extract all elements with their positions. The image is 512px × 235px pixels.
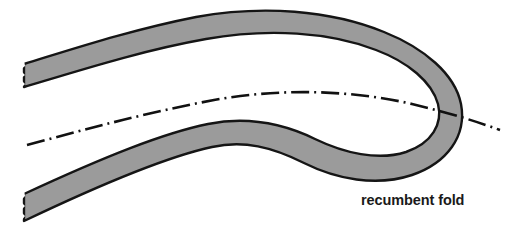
fold-diagram-svg — [0, 0, 512, 235]
diagram-background — [0, 0, 512, 235]
recumbent-fold-figure: recumbent fold — [0, 0, 512, 235]
